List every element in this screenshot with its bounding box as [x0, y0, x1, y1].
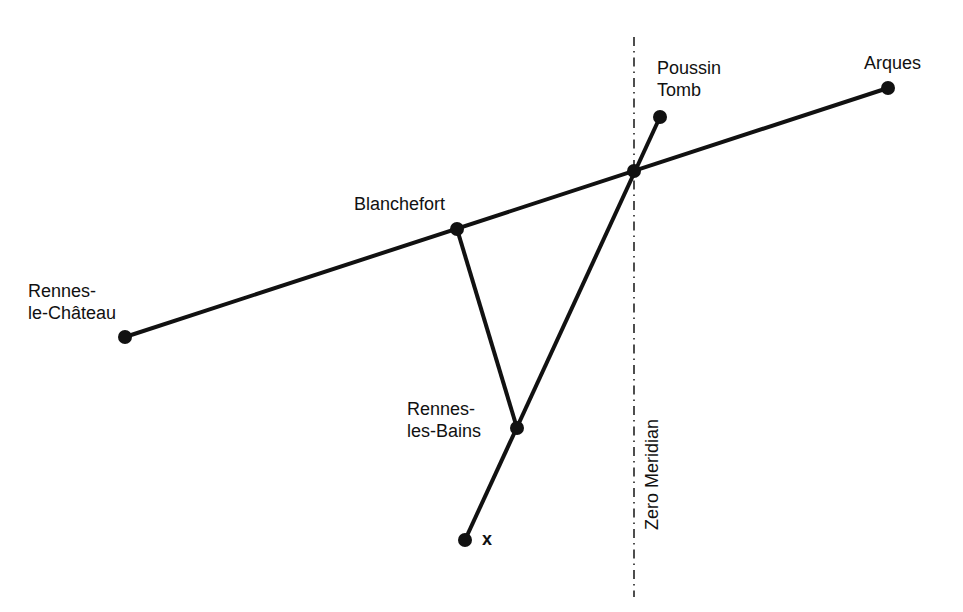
alignment-diagram — [0, 0, 963, 612]
label-arques: Arques — [864, 52, 921, 74]
label-blanchefort: Blanchefort — [354, 193, 445, 215]
segment-rennes-le-chateau-to-arques — [125, 88, 888, 337]
segment-x-to-poussin-tomb — [465, 117, 660, 540]
point-blanchefort — [450, 222, 464, 236]
label-zero-meridian: Zero Meridian — [642, 419, 663, 530]
point-arques — [881, 81, 895, 95]
point-rennes-les-bains — [510, 421, 524, 435]
point-poussin-tomb — [653, 110, 667, 124]
label-poussin-tomb: Poussin Tomb — [657, 57, 721, 101]
label-rennes-le-chateau: Rennes- le-Château — [28, 280, 116, 324]
point-intersection — [627, 164, 641, 178]
point-x — [458, 533, 472, 547]
label-rennes-les-bains: Rennes- les-Bains — [407, 398, 481, 442]
label-x: x — [482, 528, 492, 550]
point-rennes-le-chateau — [118, 330, 132, 344]
